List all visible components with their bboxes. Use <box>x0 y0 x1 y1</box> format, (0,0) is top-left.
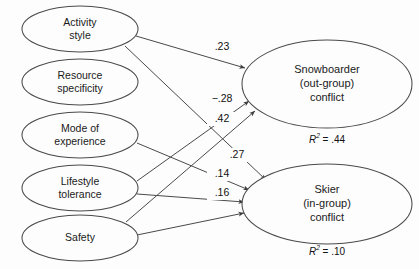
path-arrow-safety-to-skier <box>137 213 244 235</box>
r-squared-equals: = <box>320 246 331 257</box>
node-label-line1: Snowboarder <box>294 63 360 75</box>
r-squared-value: .44 <box>331 134 345 145</box>
node-label-line2: tolerance <box>58 188 101 200</box>
node-label-line2: experience <box>54 135 106 147</box>
outcome-nodes-layer: Snowboarder(out-group)conflictR2 = .44Sk… <box>242 40 412 257</box>
r-squared-value: .10 <box>331 246 345 257</box>
node-resource-specificity[interactable]: Resourcespecificity <box>22 59 138 105</box>
node-label-line1: Lifestyle <box>61 175 100 187</box>
node-label-line1: Skier <box>314 183 339 195</box>
node-label-line1: Safety <box>65 231 96 243</box>
r-squared-equals: = <box>320 134 331 145</box>
coefficient-label-lifestyle-tolerance-to-snowboarder: −.28 <box>212 92 233 104</box>
node-label-line2: (out-group) <box>300 77 354 89</box>
coefficient-label-safety-to-snowboarder: .42 <box>215 112 230 124</box>
coefficient-label-activity-style-to-snowboarder: .23 <box>215 40 230 52</box>
coefficient-label-mode-of-experience-to-skier: .14 <box>215 167 230 179</box>
node-activity-style[interactable]: Activitystyle <box>22 6 138 52</box>
path-diagram-canvas: ActivitystyleResourcespecificityMode ofe… <box>0 0 419 269</box>
r-squared-symbol: R <box>309 246 316 257</box>
node-label-line2: (in-group) <box>303 197 351 209</box>
node-label-line1: Mode of <box>61 122 99 134</box>
coefficient-label-lifestyle-tolerance-to-skier: .16 <box>215 186 230 198</box>
node-label-line3: conflict <box>310 211 344 223</box>
node-mode-of-experience[interactable]: Mode ofexperience <box>22 112 138 158</box>
predictor-nodes-layer: ActivitystyleResourcespecificityMode ofe… <box>22 6 138 261</box>
r-squared-label-snowboarder-conflict: R2 = .44 <box>309 132 346 144</box>
node-label-line3: conflict <box>310 91 344 103</box>
r-squared-label-skier-conflict: R2 = .10 <box>309 244 346 256</box>
node-label-line2: specificity <box>57 82 103 94</box>
node-skier-conflict[interactable]: Skier(in-group)conflict <box>242 164 412 244</box>
path-arrow-safety-to-snowboarder <box>126 111 255 222</box>
node-safety[interactable]: Safety <box>22 215 138 261</box>
node-label-line1: Activity <box>63 16 97 28</box>
coefficient-label-activity-style-to-skier: .27 <box>230 148 245 160</box>
node-label-line1: Resource <box>58 69 103 81</box>
node-label-line2: style <box>69 29 91 41</box>
path-diagram-container: ActivitystyleResourcespecificityMode ofe… <box>0 0 419 269</box>
r-squared-symbol: R <box>309 134 316 145</box>
node-lifestyle-tolerance[interactable]: Lifestyletolerance <box>22 165 138 211</box>
node-snowboarder-conflict[interactable]: Snowboarder(out-group)conflict <box>242 40 412 128</box>
